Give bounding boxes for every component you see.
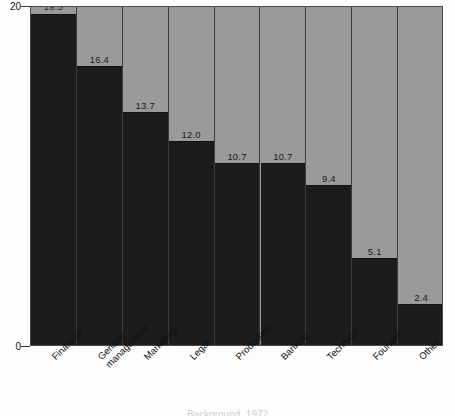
bar-value-label: 10.7 <box>215 151 260 162</box>
bar-fill <box>398 304 443 345</box>
bar-value-label: 9.4 <box>306 173 351 184</box>
bar-value-label: 16.4 <box>77 54 122 65</box>
bar-slot[interactable]: 10.7 <box>261 7 307 345</box>
bar-slot[interactable]: 16.4 <box>77 7 123 345</box>
bar-fill <box>77 66 122 345</box>
bar-value-label: 5.1 <box>352 246 397 257</box>
y-tick-label-20: 20 <box>10 1 21 12</box>
bar-fill <box>306 185 351 345</box>
bottom-caption: Background, 1972 <box>0 409 455 416</box>
bar-slot[interactable]: 12.0 <box>169 7 215 345</box>
y-tick-mark-20 <box>21 6 30 7</box>
x-axis-label: Marketing <box>122 348 168 406</box>
bar-slot[interactable]: 13.7 <box>123 7 169 345</box>
bar-slot[interactable]: 9.4 <box>306 7 352 345</box>
x-axis-label: Legal <box>168 348 214 406</box>
bar-value-label: 19.5 <box>31 6 76 12</box>
chart-figure: 20 0 19.5 16.4 13.7 12.0 10.7 10.7 <box>0 0 455 416</box>
bar-value-label: 13.7 <box>123 100 168 111</box>
plot-area: 19.5 16.4 13.7 12.0 10.7 10.7 9.4 <box>30 6 443 346</box>
x-axis-label: Production <box>214 348 260 406</box>
bar-fill <box>123 112 168 345</box>
x-axis: Financial General management Marketing L… <box>30 348 443 406</box>
bar-fill <box>169 141 214 345</box>
bar-value-label: 2.4 <box>398 292 443 303</box>
x-axis-label: Founder <box>351 348 397 406</box>
bar-fill <box>215 163 260 345</box>
x-axis-label: Financial <box>30 348 76 406</box>
bar-fill <box>31 14 76 346</box>
bar-slot[interactable]: 2.4 <box>398 7 443 345</box>
x-axis-label: General management <box>76 348 122 406</box>
y-tick-mark-0 <box>21 346 30 347</box>
x-axis-label: Other <box>397 348 443 406</box>
x-axis-label: Banking <box>260 348 306 406</box>
bar-fill <box>261 163 306 345</box>
bar-slot[interactable]: 5.1 <box>352 7 398 345</box>
bar-slot[interactable]: 10.7 <box>215 7 261 345</box>
bar-slot[interactable]: 19.5 <box>31 7 77 345</box>
bar-value-label: 10.7 <box>261 151 306 162</box>
bar-value-label: 12.0 <box>169 129 214 140</box>
x-axis-label: Technical <box>305 348 351 406</box>
y-axis: 20 0 <box>0 0 30 352</box>
